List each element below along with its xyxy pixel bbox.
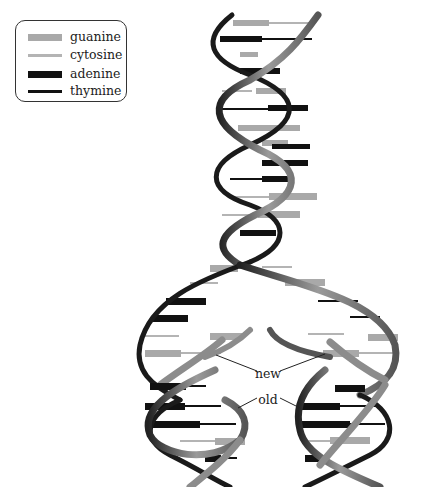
dna-replication-diagram: new old — [0, 0, 421, 487]
parent-helix-base-pairs — [220, 20, 317, 236]
label-old-strand: old — [258, 392, 278, 407]
label-new-strand: new — [255, 366, 281, 381]
